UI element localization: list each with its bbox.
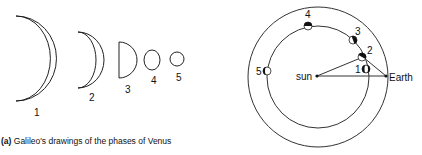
- venus-position-1: [362, 65, 370, 73]
- sun-dot: [315, 74, 318, 77]
- galileo-labels: 1 2 3 4 5: [34, 72, 182, 118]
- position-label-3: 3: [355, 26, 361, 37]
- phase-label-5: 5: [176, 72, 182, 83]
- figure-caption: (a) Galileo's drawings of the phases of …: [1, 136, 171, 146]
- caption-tag: (a): [1, 136, 11, 146]
- phase-label-4: 4: [151, 75, 157, 86]
- phase-5-full: [170, 52, 184, 66]
- phase-label-2: 2: [89, 92, 95, 103]
- sun-label: sun: [296, 71, 312, 82]
- position-label-1: 1: [355, 64, 361, 75]
- caption-text: Galileo's drawings of the phases of Venu…: [14, 136, 172, 146]
- earth-label: Earth: [389, 72, 413, 83]
- phase-label-1: 1: [34, 107, 40, 118]
- galileo-drawings: [16, 16, 184, 101]
- phase-2-crescent: [78, 32, 104, 88]
- orbit-diagram: 4 3 2 1 5 sun Earth: [248, 7, 413, 147]
- phase-1-crescent: [16, 16, 56, 101]
- phase-label-3: 3: [125, 84, 131, 95]
- position-label-2: 2: [367, 45, 373, 56]
- phase-3-half: [119, 42, 137, 78]
- earth-dot: [384, 74, 387, 77]
- venus-position-5: [263, 67, 271, 75]
- position-label-5: 5: [256, 66, 262, 77]
- venus-phases-diagram: 1 2 3 4 5: [0, 0, 422, 155]
- position-label-4: 4: [305, 9, 311, 20]
- phase-4-gibbous: [144, 50, 160, 70]
- venus-position-4: [304, 22, 312, 30]
